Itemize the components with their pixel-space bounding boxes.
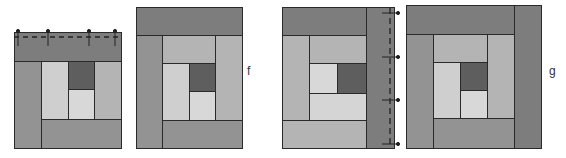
bottom-strip xyxy=(41,119,122,149)
left-strip xyxy=(406,34,434,149)
light-left-strip xyxy=(162,63,190,121)
light-square xyxy=(309,63,338,94)
light-square xyxy=(68,89,95,120)
right-strip xyxy=(514,5,542,149)
bottom-strip xyxy=(282,120,367,149)
light-bottom-strip xyxy=(309,93,367,121)
top-strip xyxy=(282,7,367,36)
center-dark-square xyxy=(460,62,488,91)
right-strip xyxy=(215,35,243,121)
light-left-strip xyxy=(41,61,69,120)
center-dark-square xyxy=(337,63,367,94)
inner-top-strip xyxy=(309,35,367,64)
bottom-strip xyxy=(433,118,515,149)
center-dark-square xyxy=(189,63,216,92)
pin-seam-vertical xyxy=(378,4,404,152)
light-left-strip xyxy=(433,62,461,119)
top-strip xyxy=(406,5,515,35)
inner-top-strip xyxy=(433,34,488,63)
step-label-g: g xyxy=(549,64,556,78)
center-dark-square xyxy=(68,61,95,90)
inner-right-strip xyxy=(487,34,515,119)
pin-seam-horizontal xyxy=(10,28,126,48)
left-strip xyxy=(136,35,163,149)
top-strip xyxy=(136,7,243,36)
light-square xyxy=(189,91,216,121)
light-square xyxy=(460,90,488,119)
bottom-strip xyxy=(162,120,243,149)
right-strip xyxy=(94,61,122,120)
step-label-f: f xyxy=(247,64,250,78)
left-strip xyxy=(14,61,42,149)
inner-top-strip xyxy=(162,35,216,64)
left-strip xyxy=(282,35,310,121)
